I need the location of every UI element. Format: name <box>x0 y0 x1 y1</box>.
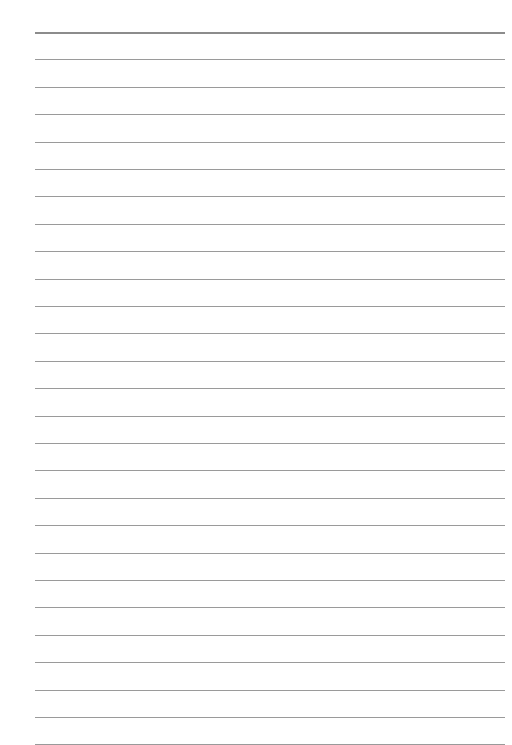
rule-line <box>35 662 505 663</box>
rule-line <box>35 388 505 389</box>
rule-line <box>35 224 505 225</box>
rule-line <box>35 690 505 691</box>
rule-line <box>35 525 505 526</box>
rule-line <box>35 607 505 608</box>
rule-line <box>35 87 505 88</box>
rule-line <box>35 553 505 554</box>
rule-line <box>35 717 505 718</box>
rule-line <box>35 361 505 362</box>
rule-line <box>35 169 505 170</box>
lined-paper-page <box>0 0 512 745</box>
rule-line <box>35 59 505 60</box>
rule-line <box>35 416 505 417</box>
rule-line <box>35 279 505 280</box>
rule-line <box>35 470 505 471</box>
rule-line <box>35 333 505 334</box>
top-rule-line <box>35 32 505 34</box>
rule-line <box>35 114 505 115</box>
rule-line <box>35 142 505 143</box>
rule-line <box>35 580 505 581</box>
rule-line <box>35 306 505 307</box>
rule-line <box>35 196 505 197</box>
rule-line <box>35 635 505 636</box>
rule-line <box>35 443 505 444</box>
rule-line <box>35 251 505 252</box>
rule-line <box>35 498 505 499</box>
